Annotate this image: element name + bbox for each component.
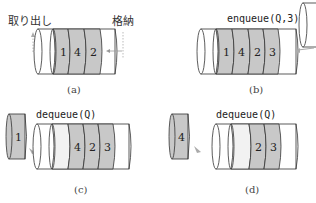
caption-c: (c) [74,184,88,195]
panel-b: enqueue(Q,3) 1 4 2 3 (b) [197,3,316,95]
queue-diagram: 取り出し 格納 1 4 2 (a) enqueue(Q,3) 1 [0,0,316,203]
queue-item: 2 [89,141,96,154]
removed-item: 1 [15,131,22,144]
queue-item: 2 [90,46,97,59]
panel-a: 取り出し 格納 1 4 2 (a) [8,14,134,95]
queue-item: 2 [254,46,261,59]
caption-b: (b) [249,84,263,95]
arrow-up-icon [31,32,35,37]
queue-item: 1 [60,46,67,59]
operation-label: enqueue(Q,3) [227,13,299,24]
dequeue-side-label: 取り出し [8,14,52,28]
removed-item: 4 [178,131,185,144]
arrow-icon [194,146,201,153]
panel-c: dequeue(Q) 1 4 2 3 (c) [6,109,131,195]
queue-item: 3 [104,141,111,154]
caption-a: (a) [67,84,81,95]
operation-label: dequeue(Q) [36,109,96,120]
queue-item: 1 [223,46,230,59]
queue-item: 3 [269,46,276,59]
operation-label: dequeue(Q) [216,109,276,120]
enqueue-side-label: 格納 [112,14,134,28]
queue-item: 2 [255,141,262,154]
queue-item: 3 [270,141,277,154]
queue-item: 4 [74,141,81,154]
queue-item: 4 [238,46,245,59]
caption-d: (d) [245,184,259,195]
panel-d: dequeue(Q) 4 2 3 (d) [169,109,298,195]
queue-item: 4 [74,46,81,59]
